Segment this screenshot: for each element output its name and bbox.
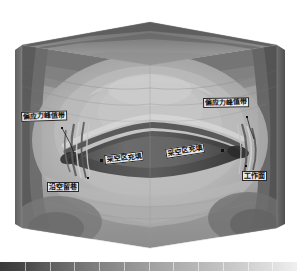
annotation-gob-side-entry: 沿空留巷: [47, 182, 79, 192]
contour-plot-3d-block: [0, 0, 297, 256]
colorbar-tick: [74, 262, 75, 271]
colorbar: [0, 262, 297, 271]
colorbar-tick: [99, 262, 100, 271]
colorbar-tick: [50, 262, 51, 271]
colorbar-tick: [248, 262, 249, 271]
block-front-face: [14, 45, 288, 248]
colorbar-tick: [149, 262, 150, 271]
annotation-peak-stress-left: 偏应力峰值带: [21, 110, 67, 122]
colorbar-tick: [223, 262, 224, 271]
annotation-working-face: 工作面: [242, 171, 267, 181]
colorbar-tick: [25, 262, 26, 271]
colorbar-tick: [198, 262, 199, 271]
colorbar-gradient: [0, 262, 297, 271]
figure-canvas: 偏应力峰值带 偏应力峰值带 采空区充填 采空区充填 沿空留巷 工作面: [0, 0, 297, 272]
block-right-face: [277, 45, 285, 228]
colorbar-tick: [272, 262, 273, 271]
block-left-face: [15, 45, 22, 228]
annotation-peak-stress-right: 偏应力峰值带: [203, 97, 249, 108]
colorbar-tick: [124, 262, 125, 271]
colorbar-tick: [173, 262, 174, 271]
